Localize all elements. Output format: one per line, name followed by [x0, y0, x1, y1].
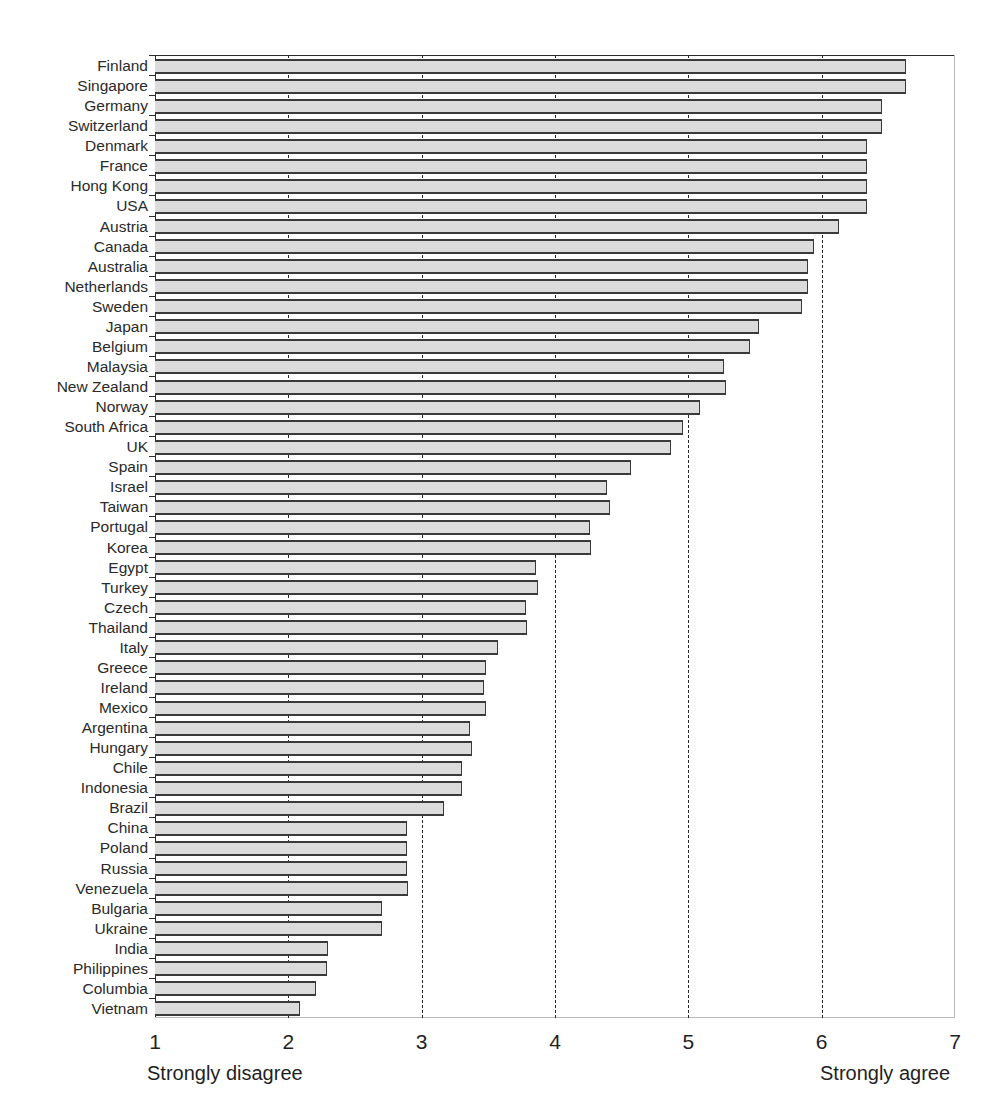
category-tick — [149, 95, 155, 96]
bar — [155, 680, 484, 695]
category-label: Argentina — [82, 720, 148, 735]
category-label: Netherlands — [64, 279, 148, 294]
bar — [155, 640, 498, 655]
bar — [155, 480, 607, 495]
bar — [155, 801, 444, 816]
bar — [155, 279, 808, 294]
category-tick — [149, 115, 155, 116]
bar — [155, 159, 867, 174]
bar — [155, 580, 538, 595]
category-label: Israel — [110, 479, 148, 494]
bar — [155, 359, 724, 374]
category-label: Denmark — [85, 138, 148, 153]
category-label: Portugal — [90, 519, 148, 534]
bar — [155, 1001, 300, 1016]
category-tick — [149, 316, 155, 317]
bar-chart: FinlandSingaporeGermanySwitzerlandDenmar… — [0, 0, 1007, 1104]
category-label: Korea — [107, 540, 148, 555]
category-label: Vietnam — [91, 1001, 148, 1016]
category-label: Finland — [97, 58, 148, 73]
category-tick — [149, 918, 155, 919]
category-tick — [149, 817, 155, 818]
bar — [155, 981, 316, 996]
category-tick — [149, 617, 155, 618]
bar — [155, 540, 591, 555]
category-label: Sweden — [92, 299, 148, 314]
category-tick — [149, 657, 155, 658]
category-tick — [149, 597, 155, 598]
category-label: Columbia — [83, 981, 148, 996]
category-tick — [149, 155, 155, 156]
value-tick-label: 4 — [549, 1030, 561, 1054]
category-tick — [149, 797, 155, 798]
category-tick — [149, 537, 155, 538]
category-label: Austria — [100, 219, 148, 234]
bar — [155, 79, 906, 94]
category-label: UK — [126, 439, 148, 454]
category-tick — [149, 717, 155, 718]
category-label: China — [108, 820, 149, 835]
category-tick — [149, 998, 155, 999]
category-label: Philippines — [73, 961, 148, 976]
bar — [155, 259, 808, 274]
category-tick — [149, 737, 155, 738]
category-tick — [149, 557, 155, 558]
category-label: Malaysia — [87, 359, 148, 374]
category-label: Germany — [84, 98, 148, 113]
bar — [155, 921, 382, 936]
category-label: France — [100, 158, 148, 173]
value-axis: 1234567 Strongly disagree Strongly agree — [155, 1018, 955, 1104]
axis-anchor-low: Strongly disagree — [147, 1062, 303, 1085]
category-label: Russia — [101, 861, 148, 876]
category-tick — [149, 637, 155, 638]
bar — [155, 219, 839, 234]
value-tick-label: 1 — [149, 1030, 161, 1054]
category-tick — [149, 757, 155, 758]
category-tick — [149, 356, 155, 357]
bar — [155, 961, 327, 976]
category-label: USA — [116, 198, 148, 213]
bar — [155, 319, 759, 334]
category-tick — [149, 296, 155, 297]
category-tick — [149, 837, 155, 838]
bar — [155, 460, 631, 475]
category-tick — [149, 938, 155, 939]
category-label: Ukraine — [95, 921, 148, 936]
bar — [155, 701, 486, 716]
category-label: Japan — [106, 319, 148, 334]
value-tick-label: 2 — [282, 1030, 294, 1054]
category-label: Norway — [95, 399, 148, 414]
category-label: Taiwan — [100, 499, 148, 514]
category-label: Italy — [120, 640, 148, 655]
category-tick — [149, 436, 155, 437]
category-tick — [149, 898, 155, 899]
category-tick — [149, 858, 155, 859]
category-axis-labels: FinlandSingaporeGermanySwitzerlandDenmar… — [0, 55, 148, 1018]
category-label: Czech — [104, 600, 148, 615]
category-tick — [149, 135, 155, 136]
category-tick — [149, 195, 155, 196]
category-tick — [149, 777, 155, 778]
category-label: India — [114, 941, 148, 956]
category-label: South Africa — [64, 419, 148, 434]
bar — [155, 600, 526, 615]
category-label: Thailand — [89, 620, 148, 635]
category-tick — [149, 516, 155, 517]
category-label: Greece — [97, 660, 148, 675]
category-tick — [149, 476, 155, 477]
category-label: Egypt — [108, 560, 148, 575]
bar — [155, 59, 906, 74]
bar — [155, 380, 726, 395]
bar — [155, 179, 867, 194]
category-label: Venezuela — [76, 881, 148, 896]
bar — [155, 841, 407, 856]
value-tick-label: 7 — [949, 1030, 961, 1054]
bar — [155, 339, 750, 354]
category-label: Hungary — [89, 740, 148, 755]
category-label: Chile — [113, 760, 148, 775]
bar — [155, 941, 328, 956]
category-tick — [149, 456, 155, 457]
category-tick — [149, 256, 155, 257]
category-label: Spain — [108, 459, 148, 474]
bar — [155, 119, 882, 134]
